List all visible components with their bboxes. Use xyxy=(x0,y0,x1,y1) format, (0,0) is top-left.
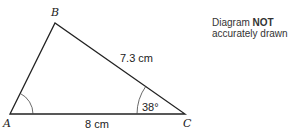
not-to-scale-note: Diagram NOT accurately drawn xyxy=(212,17,288,39)
note-bold: NOT xyxy=(253,17,274,28)
side-ac-label: 8 cm xyxy=(85,118,109,130)
vertex-label-a: A xyxy=(2,117,11,130)
vertex-label-b: B xyxy=(50,6,59,19)
angle-c-label: 38° xyxy=(142,101,159,113)
vertex-label-c: C xyxy=(183,117,192,130)
note-prefix: Diagram xyxy=(212,17,253,28)
angle-a-arc xyxy=(20,93,33,114)
note-suffix: accurately drawn xyxy=(212,28,288,39)
side-bc-label: 7.3 cm xyxy=(120,52,153,64)
triangle-abc xyxy=(10,23,185,114)
